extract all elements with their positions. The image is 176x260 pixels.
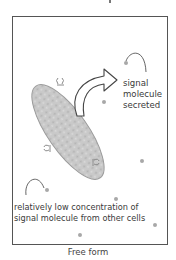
secretion-arrow-icon: [75, 69, 117, 116]
molecule-path-icon: [126, 53, 146, 72]
figure-caption: Free form: [0, 247, 176, 257]
secreted-label-line3: secreted: [123, 100, 162, 111]
signal-molecule-dot: [140, 159, 144, 163]
low-concentration-label: relatively low concentration of signal m…: [14, 202, 145, 224]
bacterium-cell: [19, 75, 116, 190]
signal-molecule-dot: [114, 197, 118, 201]
low-concentration-line1: relatively low concentration of: [14, 202, 145, 213]
molecule-path-icon: [26, 179, 44, 195]
secreted-label: signal molecule secreted: [123, 78, 162, 111]
signal-molecule-dot: [153, 223, 157, 227]
signal-molecule-dot: [45, 188, 49, 192]
secreted-label-line1: signal: [123, 78, 162, 89]
signal-molecule-dot: [102, 100, 106, 104]
signal-molecule-dot: [78, 233, 82, 237]
signal-molecule-dot: [124, 61, 128, 65]
low-concentration-line2: signal molecule from other cells: [14, 213, 145, 224]
secreted-label-line2: molecule: [123, 89, 162, 100]
